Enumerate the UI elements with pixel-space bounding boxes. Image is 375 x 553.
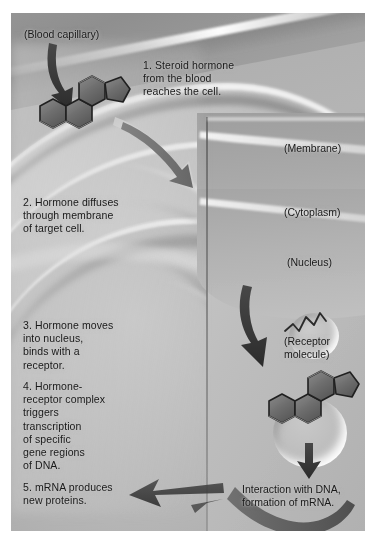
step-4-text: 4. Hormone- receptor complex triggers tr… xyxy=(23,380,138,472)
label-receptor-molecule: (Receptor molecule) xyxy=(284,335,365,361)
caption-dna-interaction: Interaction with DNA, formation of mRNA. xyxy=(242,483,365,509)
illustration-plate: 1. Steroid hormone from the blood reache… xyxy=(11,13,365,531)
label-membrane: (Membrane) xyxy=(284,142,341,155)
step-3-text: 3. Hormone moves into nucleus, binds wit… xyxy=(23,319,143,372)
steroid-hormone-diagram: 1. Steroid hormone from the blood reache… xyxy=(0,0,375,553)
cutaway-edge-line xyxy=(206,117,208,531)
step-2-text: 2. Hormone diffuses through membrane of … xyxy=(23,196,158,236)
label-blood-capillary: (Blood capillary) xyxy=(24,28,99,41)
receptor-pocket-lower xyxy=(273,398,347,468)
cutaway-top-bevel xyxy=(207,117,365,121)
step-5-text: 5. mRNA produces new proteins. xyxy=(23,481,158,507)
label-cytoplasm: (Cytoplasm) xyxy=(284,206,341,219)
step-1-text: 1. Steroid hormone from the blood reache… xyxy=(143,59,263,99)
label-nucleus: (Nucleus) xyxy=(287,256,332,269)
